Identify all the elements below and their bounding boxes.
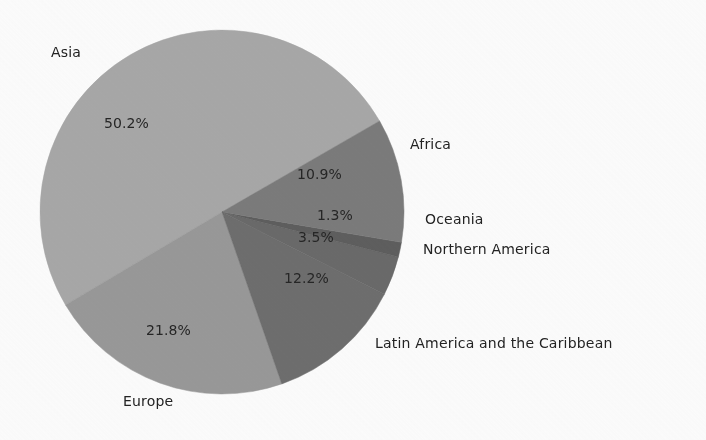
slice-value-latin-america: 12.2% [284,270,329,286]
pie-chart-svg [0,0,706,440]
slice-label-asia: Asia [51,44,81,60]
slice-label-europe: Europe [123,393,173,409]
pie-chart-figure: 50.2% 21.8% 12.2% 3.5% 1.3% 10.9% Asia E… [0,0,706,440]
slice-label-africa: Africa [410,136,451,152]
slice-value-europe: 21.8% [146,322,191,338]
slice-value-asia: 50.2% [104,115,149,131]
slice-value-oceania: 1.3% [317,207,353,223]
slice-label-latin-america: Latin America and the Caribbean [375,335,613,351]
slice-label-oceania: Oceania [425,211,484,227]
slice-value-africa: 10.9% [297,166,342,182]
slice-value-northern-america: 3.5% [298,229,334,245]
slice-label-northern-america: Northern America [423,241,551,257]
